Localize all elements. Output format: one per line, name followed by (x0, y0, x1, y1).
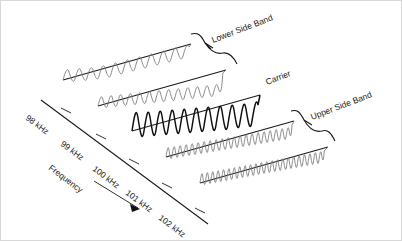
frequency-axis-label: Frequency (47, 163, 86, 196)
figure-canvas: 98 kHz 99 kHz 100 kHz 101 kHz 102 kHz Fr… (0, 0, 402, 241)
axis-tick-label-99: 99 kHz (59, 139, 86, 163)
axis-tick-label-102: 102 kHz (157, 213, 188, 240)
waveform-100khz-carrier (132, 95, 260, 136)
waveform-carrier-trace (132, 95, 260, 136)
frequency-axis-line (41, 100, 208, 224)
lower-side-band-label: Lower Side Band (210, 12, 274, 45)
waveform-99khz (98, 70, 226, 107)
axis-tick-102 (195, 208, 205, 213)
waveform-101khz-baseline (166, 121, 294, 157)
waveform-102khz (200, 147, 328, 184)
am-spectrum-diagram: 98 kHz 99 kHz 100 kHz 101 kHz 102 kHz Fr… (1, 1, 402, 241)
waveform-101khz (166, 121, 294, 158)
axis-tick-101 (162, 183, 172, 188)
axis-tick-98 (61, 108, 71, 113)
axis-tick-label-100: 100 kHz (91, 164, 122, 191)
waveform-99khz-baseline (98, 70, 226, 106)
axis-tick-99 (96, 134, 106, 139)
carrier-label: Carrier (264, 68, 292, 87)
waveform-98khz (63, 44, 191, 81)
axis-tick-100 (129, 159, 139, 164)
frequency-axis: 98 kHz 99 kHz 100 kHz 101 kHz 102 kHz Fr… (24, 100, 208, 239)
axis-tick-label-98: 98 kHz (24, 113, 51, 137)
upper-side-band-label: Upper Side Band (309, 89, 373, 122)
axis-tick-label-101: 101 kHz (124, 188, 155, 215)
